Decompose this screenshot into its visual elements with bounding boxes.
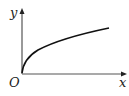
x-axis-label: x: [119, 76, 126, 89]
function-curve: [22, 28, 109, 73]
y-axis-label: y: [10, 6, 17, 19]
origin-label: O: [9, 76, 20, 89]
y-axis-arrow-icon: [20, 8, 25, 14]
